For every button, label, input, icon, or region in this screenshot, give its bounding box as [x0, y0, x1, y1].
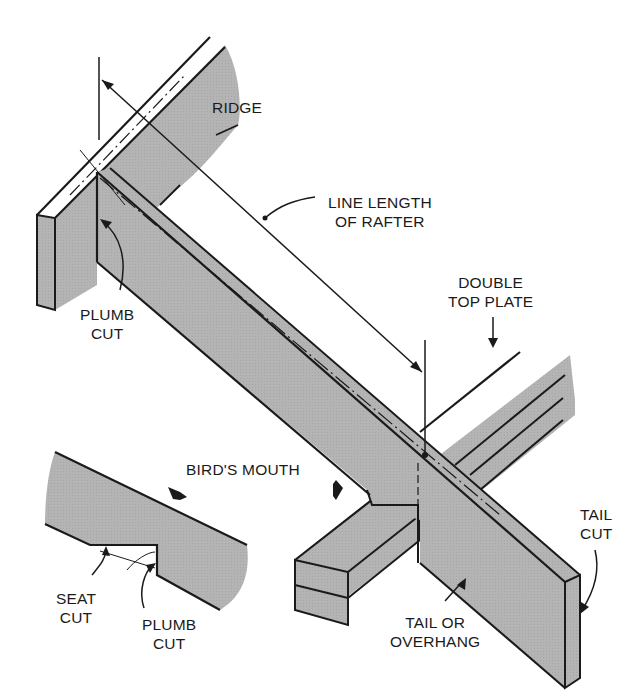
label-birds-mouth: BIRD'S MOUTH — [186, 460, 300, 479]
label-plumb-cut-top: PLUMB CUT — [80, 305, 134, 343]
label-ridge: RIDGE — [212, 98, 262, 117]
label-plumb-cut-detail: PLUMB CUT — [142, 615, 196, 653]
pointer-arrow-icon — [333, 480, 343, 500]
label-line-length: LINE LENGTH OF RAFTER — [328, 193, 432, 231]
pointer-arrow-icon — [168, 487, 187, 500]
label-seat-cut: SEAT CUT — [56, 589, 96, 627]
rafter-diagram — [0, 0, 632, 690]
label-tail-cut: TAIL CUT — [580, 505, 612, 543]
label-tail-overhang: TAIL OR OVERHANG — [390, 613, 480, 651]
label-double-top-plate: DOUBLE TOP PLATE — [448, 273, 533, 311]
